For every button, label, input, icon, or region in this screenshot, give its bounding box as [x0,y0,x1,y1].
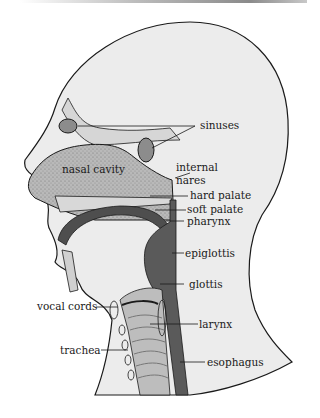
label-sinuses: sinuses [200,120,239,131]
label-pharynx: pharynx [187,216,230,227]
label-nasal-cavity: nasal cavity [62,164,125,175]
label-esophagus: esophagus [207,357,264,368]
label-soft-palate: soft palate [187,204,243,215]
label-internal-nares-line1: internal [176,162,218,173]
sphenoid-sinus [138,138,154,162]
label-vocal-cords: vocal cords [37,301,97,312]
label-larynx: larynx [199,319,232,330]
label-internal-nares-line2: nares [176,175,206,186]
label-epiglottis: epiglottis [185,248,235,259]
label-glottis: glottis [189,279,223,290]
frontal-sinus [59,119,77,133]
label-hard-palate: hard palate [190,190,251,201]
label-trachea: trachea [60,345,101,356]
